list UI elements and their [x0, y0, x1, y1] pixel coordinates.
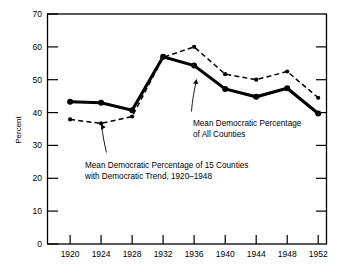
- data-point: [253, 94, 259, 100]
- series-dashed-fifteen-counties: [68, 45, 320, 126]
- leader-arrowhead-all-counties: [193, 80, 198, 85]
- x-tick-label: 1936: [185, 249, 204, 259]
- x-tick-label: 1932: [154, 249, 173, 259]
- y-tick-label: 20: [33, 173, 43, 183]
- data-point: [315, 111, 321, 117]
- y-axis-title: Percent: [14, 115, 23, 143]
- y-tick-label: 40: [33, 108, 43, 118]
- data-point: [67, 99, 73, 105]
- chart-container: 70 60 50 40 30 20 10 0 Percent 1920 1924: [0, 0, 342, 276]
- y-tick-labels: 70 60 50 40 30 20 10 0: [33, 9, 43, 249]
- annotation-line-2: of All Counties: [193, 130, 245, 139]
- data-point: [130, 114, 134, 118]
- y-axis-ticks-right: [316, 47, 327, 211]
- data-point: [98, 100, 104, 106]
- data-point: [129, 107, 135, 113]
- data-point: [223, 72, 227, 76]
- percent-line-chart: 70 60 50 40 30 20 10 0 Percent 1920 1924: [0, 0, 342, 276]
- x-tick-label: 1940: [216, 249, 235, 259]
- data-point: [254, 78, 258, 82]
- data-point: [192, 45, 196, 49]
- x-tick-label: 1944: [247, 249, 266, 259]
- data-point: [285, 69, 289, 73]
- data-point: [68, 117, 72, 121]
- y-axis-ticks: [48, 14, 59, 244]
- x-tick-label: 1924: [92, 249, 111, 259]
- x-tick-label: 1948: [278, 249, 297, 259]
- y-tick-label: 0: [37, 239, 42, 249]
- series-solid-all-counties: [67, 54, 321, 117]
- data-point: [222, 86, 228, 92]
- series-dashed-markers: [68, 45, 320, 126]
- data-point: [160, 54, 166, 60]
- y-tick-label: 70: [33, 9, 43, 19]
- y-tick-label: 10: [33, 206, 43, 216]
- data-point: [191, 63, 197, 69]
- leader-arrowhead-fifteen-counties: [101, 125, 106, 130]
- annotation-line-1: Mean Democratic Percentage: [193, 119, 302, 128]
- y-tick-label: 60: [33, 42, 43, 52]
- series-dashed-path: [70, 47, 318, 124]
- leader-line-all-counties: [192, 80, 197, 112]
- annotation-line-2: with Democratic Trend, 1920–1948: [84, 172, 212, 181]
- annotation-line-1: Mean Democratic Percentage of 15 Countie…: [85, 161, 248, 170]
- data-point: [316, 96, 320, 100]
- plot-frame: [48, 14, 327, 244]
- data-point: [284, 85, 290, 91]
- x-tick-label: 1928: [123, 249, 142, 259]
- x-tick-label: 1920: [61, 249, 80, 259]
- y-tick-label: 50: [33, 75, 43, 85]
- series-solid-markers: [67, 54, 321, 117]
- x-axis-ticks: [70, 235, 318, 244]
- x-tick-labels: 1920 1924 1928 1932 1936 1940 1944 1948 …: [61, 249, 328, 259]
- y-tick-label: 30: [33, 140, 43, 150]
- x-tick-label: 1952: [309, 249, 328, 259]
